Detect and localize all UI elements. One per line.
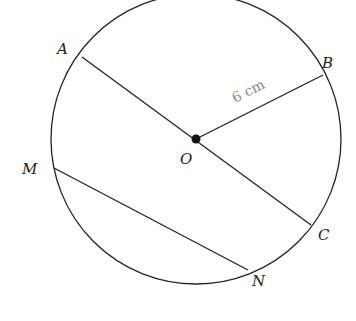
- label-m: M: [21, 160, 38, 178]
- label-a: A: [55, 40, 68, 58]
- label-b: B: [321, 54, 333, 72]
- chord-mn: [54, 168, 248, 270]
- circle-diagram: A B C M N O 6 cm: [0, 0, 356, 321]
- label-c: C: [318, 226, 330, 244]
- center-point: [192, 135, 201, 144]
- label-o: O: [180, 150, 192, 168]
- radius-measurement: 6 cm: [229, 76, 267, 106]
- label-n: N: [251, 272, 266, 290]
